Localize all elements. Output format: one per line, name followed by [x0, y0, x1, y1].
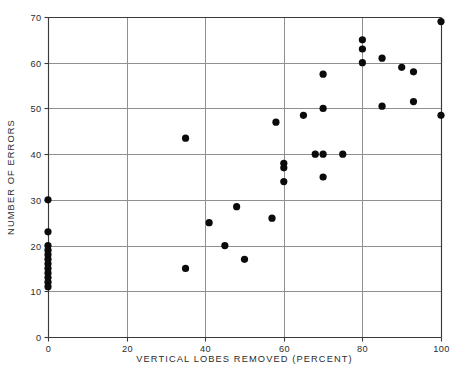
- axes-group: [49, 18, 442, 338]
- data-point: [241, 256, 248, 263]
- data-point: [182, 135, 189, 142]
- x-tick-label: 40: [200, 344, 211, 354]
- data-point: [339, 151, 346, 158]
- data-point: [44, 283, 51, 290]
- data-point: [437, 112, 444, 119]
- y-tick-label: 0: [36, 333, 42, 343]
- data-point: [280, 164, 287, 171]
- data-point: [268, 215, 275, 222]
- data-point: [359, 45, 366, 52]
- y-tick-label: 20: [30, 242, 41, 252]
- data-point: [398, 64, 405, 71]
- data-point: [320, 173, 327, 180]
- data-point: [312, 151, 319, 158]
- x-tick-label: 20: [122, 344, 133, 354]
- tick-marks-group: [45, 18, 442, 342]
- x-tick-label: 60: [279, 344, 290, 354]
- data-point: [410, 98, 417, 105]
- data-point: [359, 36, 366, 43]
- y-tick-label: 60: [30, 59, 41, 69]
- data-point: [44, 196, 51, 203]
- data-point: [410, 68, 417, 75]
- y-tick-label: 50: [30, 104, 41, 114]
- scatter-chart: 010203040506070020406080100 VERTICAL LOB…: [0, 0, 461, 376]
- data-point: [320, 105, 327, 112]
- y-axis-title: NUMBER OF ERRORS: [6, 119, 16, 235]
- data-point: [221, 242, 228, 249]
- y-tick-label: 10: [30, 287, 41, 297]
- y-tick-label: 30: [30, 196, 41, 206]
- data-point: [320, 151, 327, 158]
- data-point: [378, 103, 385, 110]
- data-point: [272, 119, 279, 126]
- data-point: [300, 112, 307, 119]
- data-point: [44, 228, 51, 235]
- y-tick-label: 40: [30, 150, 41, 160]
- data-point: [280, 178, 287, 185]
- gridlines-group: [48, 17, 441, 337]
- x-tick-label: 100: [433, 344, 450, 354]
- data-point: [233, 203, 240, 210]
- data-point: [206, 219, 213, 226]
- x-tick-label: 0: [46, 344, 52, 354]
- x-axis-title: VERTICAL LOBES REMOVED (PERCENT): [136, 354, 353, 364]
- data-point: [320, 71, 327, 78]
- data-point: [437, 18, 444, 25]
- data-point: [359, 59, 366, 66]
- plot-area: 010203040506070020406080100 VERTICAL LOB…: [0, 0, 461, 376]
- data-point: [378, 55, 385, 62]
- data-point: [182, 265, 189, 272]
- x-tick-label: 80: [357, 344, 368, 354]
- y-tick-label: 70: [30, 13, 41, 23]
